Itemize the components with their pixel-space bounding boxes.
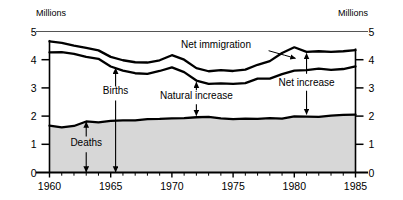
population-components-chart: 196019651970197519801985543210543210Mill… xyxy=(0,0,403,200)
x-tick-label: 1965 xyxy=(99,180,123,192)
net-immigration-leader-arrow xyxy=(285,55,296,58)
y-axis-title-left: Millions xyxy=(36,8,67,18)
x-tick-label: 1960 xyxy=(38,180,62,192)
natural-increase-label: Natural increase xyxy=(160,90,233,101)
net-increase-label: Net increase xyxy=(278,77,335,88)
y-tick-label-left: 3 xyxy=(31,82,37,94)
y-tick-label-right: 3 xyxy=(369,82,375,94)
y-tick-label-left: 5 xyxy=(31,26,37,38)
y-tick-label-left: 1 xyxy=(31,138,37,150)
net-immigration-label: Net immigration xyxy=(181,39,251,50)
y-tick-label-right: 0 xyxy=(369,167,375,179)
x-tick-label: 1980 xyxy=(283,180,307,192)
y-tick-label-right: 2 xyxy=(369,110,375,122)
deaths-label: Deaths xyxy=(70,137,102,148)
y-tick-label-left: 0 xyxy=(31,167,37,179)
y-tick-label-right: 4 xyxy=(369,54,375,66)
x-tick-label: 1970 xyxy=(160,180,184,192)
x-tick-label: 1975 xyxy=(221,180,245,192)
y-tick-label-left: 2 xyxy=(31,110,37,122)
births-label: Births xyxy=(103,85,129,96)
y-tick-label-right: 1 xyxy=(369,138,375,150)
y-tick-label-left: 4 xyxy=(31,54,37,66)
chart-canvas: 196019651970197519801985543210543210Mill… xyxy=(0,0,403,200)
y-tick-label-right: 5 xyxy=(369,26,375,38)
y-axis-title-right: Millions xyxy=(338,8,369,18)
x-tick-label: 1985 xyxy=(344,180,368,192)
